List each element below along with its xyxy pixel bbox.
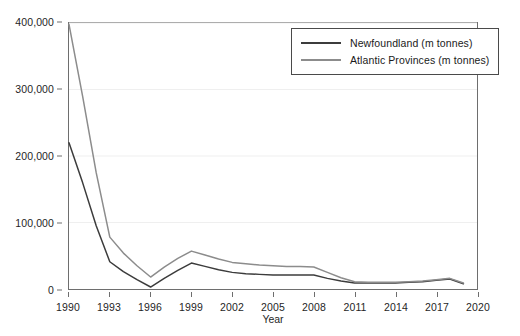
legend-line-swatch	[301, 59, 341, 61]
legend-item: Atlantic Provinces (m tonnes)	[301, 51, 489, 68]
legend-label: Newfoundland (m tonnes)	[350, 37, 473, 49]
x-tick-label: 2011	[344, 301, 367, 313]
x-tick-mark	[191, 292, 192, 297]
legend-item: Newfoundland (m tonnes)	[301, 34, 489, 51]
x-tick-mark	[478, 292, 479, 297]
x-tick-mark	[109, 292, 110, 297]
x-tick-mark	[68, 292, 69, 297]
x-tick-mark	[232, 292, 233, 297]
x-tick-label: 2014	[384, 301, 408, 313]
y-tick-mark	[57, 22, 62, 23]
x-axis-title: Year	[68, 313, 478, 325]
y-tick-mark	[57, 89, 62, 90]
y-tick-label: 300,000	[15, 83, 54, 95]
x-tick-label: 1990	[56, 301, 80, 313]
line-chart: 0100,000200,000300,000400,000 1990199319…	[0, 0, 520, 336]
x-tick-label: 2017	[425, 301, 449, 313]
y-tick-label: 0	[48, 284, 54, 296]
x-tick-label: 2005	[261, 301, 285, 313]
x-tick-mark	[355, 292, 356, 297]
y-tick-mark	[57, 223, 62, 224]
legend-line-swatch	[301, 42, 341, 44]
y-axis: 0100,000200,000300,000400,000	[0, 22, 62, 290]
x-tick-mark	[437, 292, 438, 297]
x-tick-label: 1996	[138, 301, 162, 313]
x-tick-label: 1993	[97, 301, 121, 313]
x-tick-mark	[273, 292, 274, 297]
x-tick-mark	[396, 292, 397, 297]
y-tick-label: 400,000	[15, 16, 54, 28]
x-tick-mark	[314, 292, 315, 297]
y-tick-mark	[57, 290, 62, 291]
y-tick-label: 100,000	[15, 217, 54, 229]
x-tick-label: 2020	[466, 301, 490, 313]
x-tick-label: 2002	[220, 301, 244, 313]
x-tick-label: 2008	[302, 301, 326, 313]
chart-legend: Newfoundland (m tonnes)Atlantic Province…	[291, 28, 499, 75]
y-tick-label: 200,000	[15, 150, 54, 162]
x-tick-mark	[150, 292, 151, 297]
x-axis: 1990199319961999200220052008201120142017…	[68, 292, 478, 314]
legend-label: Atlantic Provinces (m tonnes)	[350, 54, 489, 66]
y-tick-mark	[57, 156, 62, 157]
x-tick-label: 1999	[179, 301, 203, 313]
